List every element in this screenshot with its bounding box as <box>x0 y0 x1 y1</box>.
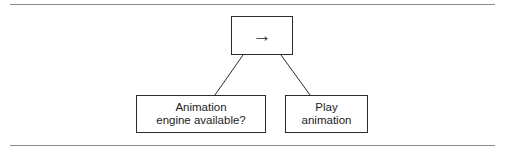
node-left-label: Animation engine available? <box>152 101 250 128</box>
node-root: → <box>231 16 293 55</box>
node-right-label: Play animation <box>298 101 356 128</box>
edge-root-to-left <box>215 55 243 95</box>
diagram-figure: → Animation engine available? Play anima… <box>0 0 505 153</box>
node-animation-engine-available: Animation engine available? <box>136 95 266 133</box>
edge-root-to-right <box>281 55 310 95</box>
node-play-animation: Play animation <box>285 95 368 133</box>
right-arrow-icon: → <box>253 26 272 45</box>
bottom-horizontal-rule <box>10 145 495 146</box>
